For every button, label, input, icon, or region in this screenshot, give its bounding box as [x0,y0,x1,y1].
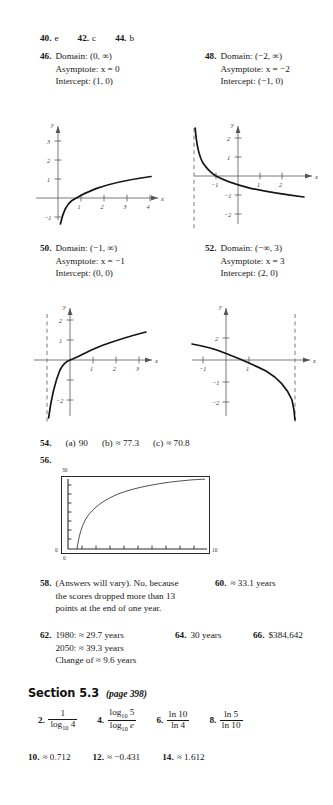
answer-row-54: 54. (a) 90 (b) ≈ 77.3 (c) ≈ 70.8 [40,438,190,448]
answer-line: 1980: ≈ 29.7 years [55,630,136,641]
answer-block-60: 60. ≈ 33.1 years [215,578,276,588]
problem-number: 10. [28,752,39,762]
answer-row-10: 10. ≈ 0.712 12. ≈ −0.431 14. ≈ 1.612 [28,752,205,762]
problem-number: 12. [93,752,104,762]
graph-46: 1 2 3 4 1 2 3 −1 x y [30,120,180,230]
svg-text:x: x [314,173,318,180]
answer-part-b: (b) ≈ 77.3 [102,438,139,448]
calc-ymin-label: 0 [55,547,58,553]
answer-line: the scores dropped more than 13 [55,591,178,602]
svg-text:−1: −1 [199,365,206,372]
problem-number: 6. [156,715,163,725]
asymptote-line: Asymptote: x = 0 [55,64,119,75]
log-subscript: 10 [122,725,128,732]
problem-answer: e [54,33,58,43]
problem-answer: $384,642 [268,630,302,640]
log-base-text: log [50,719,62,729]
answer-item-10: 10. ≈ 0.712 [28,752,71,762]
answer-block-64: 64. 30 years [175,630,221,640]
fraction: 1 log10 4 [48,709,77,732]
svg-text:y: y [50,121,54,128]
problem-number: 52. [205,243,216,253]
svg-text:1: 1 [246,365,249,372]
svg-text:1: 1 [47,176,50,183]
svg-text:−1: −1 [44,214,51,221]
problem-number: 50. [40,243,51,253]
answer-item-12: 12. ≈ −0.431 [93,752,141,762]
answer-item-4: 4. log10 5 log10 e [97,708,136,733]
answer-line: 2050: ≈ 39.3 years [55,643,136,654]
asymptote-line: Asymptote: x = −2 [220,64,289,75]
problem-answer: ≈ 33.1 years [230,578,275,588]
problem-answer: ≈ 1.612 [177,752,205,762]
answer-block-58: 58. (Answers will vary). No, because the… [40,578,178,615]
answer-item-6: 6. ln 10 ln 4 [156,710,189,731]
problem-number: 40. [40,33,51,43]
log-argument: 5 [130,707,135,717]
answer-block-52: 52. Domain: (−∞, 3) Asymptote: x = 3 Int… [205,243,285,280]
calc-ymax-label: 30 [62,467,67,473]
fraction: log10 5 log10 e [108,708,137,733]
svg-text:1: 1 [59,337,62,344]
part-label: (a) [65,438,75,448]
svg-text:y: y [62,303,66,310]
answer-item-44: 44. b [115,33,134,43]
problem-number: 44. [115,33,126,43]
answer-block-50: 50. Domain: (−1, ∞) Asymptote: x = −1 In… [40,243,125,280]
fraction-numerator: 1 [59,709,68,719]
svg-text:y: y [230,121,234,128]
part-value: ≈ 70.8 [166,438,189,448]
fraction: ln 5 ln 10 [220,710,243,731]
problem-number: 58. [40,578,51,588]
section-page-ref: (page 398) [106,688,147,699]
asymptote-line: Asymptote: x = −1 [55,256,124,267]
answer-line: (Answers will vary). No, because [55,578,178,589]
answer-item-14: 14. ≈ 1.612 [162,752,205,762]
section-heading: Section 5.3 (page 398) [28,686,147,700]
svg-text:1: 1 [227,154,230,161]
graph-50: 1 2 3 1 2 −2 x y [22,300,177,425]
svg-text:y: y [218,303,222,310]
fraction-denominator: ln 10 [220,721,243,731]
graph-48: −1 1 2 1 2 −1 −2 x y [180,118,332,232]
svg-text:−2: −2 [56,397,63,404]
fraction-numerator: log10 5 [108,708,137,720]
problem-answer: b [130,33,135,43]
answer-row-fractions: 2. 1 log10 4 4. log10 5 log10 e 6. ln 10… [38,708,243,733]
svg-text:2: 2 [279,181,282,188]
problem-number: 2. [38,715,45,725]
intercept-line: Intercept: (−1, 0) [220,76,289,87]
svg-text:1: 1 [90,365,93,372]
problem-answer: 30 years [190,630,221,640]
problem-number: 4. [97,715,104,725]
fraction: ln 10 ln 4 [167,710,190,731]
answer-block-48: 48. Domain: (−2, ∞) Asymptote: x = −2 In… [205,51,290,88]
part-label: (b) [102,438,113,448]
problem-number: 60. [215,578,226,588]
calculator-screen-56: 30 [55,468,215,564]
svg-text:1: 1 [257,181,260,188]
fraction-denominator: ln 4 [169,721,187,731]
log-subscript: 10 [62,724,68,731]
asymptote-line: Asymptote: x = 3 [220,256,284,267]
svg-text:2: 2 [215,335,218,342]
problem-number: 54. [40,438,51,448]
answer-block-46: 46. Domain: (0, ∞) Asymptote: x = 0 Inte… [40,51,120,88]
log-argument: 4 [71,719,76,729]
answer-line: points at the end of one year. [55,603,178,614]
answer-lines: 1980: ≈ 29.7 years 2050: ≈ 39.3 years Ch… [55,630,136,667]
answer-lines: Domain: (−2, ∞) Asymptote: x = −2 Interc… [220,51,289,88]
svg-text:2: 2 [59,317,62,324]
domain-line: Domain: (−∞, 3) [220,243,284,254]
problem-answer: ≈ 0.712 [42,752,70,762]
fraction-denominator: log10 4 [48,720,77,732]
problem-number: 66. [253,630,264,640]
answer-lines: Domain: (−∞, 3) Asymptote: x = 3 Interce… [220,243,284,280]
svg-text:−1: −1 [224,192,231,199]
answer-part-a: (a) 90 [65,438,87,448]
svg-text:3: 3 [46,138,50,145]
part-label: (c) [153,438,163,448]
svg-text:−1: −1 [211,181,218,188]
answer-lines: Domain: (0, ∞) Asymptote: x = 0 Intercep… [55,51,119,88]
svg-text:x: x [312,357,316,364]
